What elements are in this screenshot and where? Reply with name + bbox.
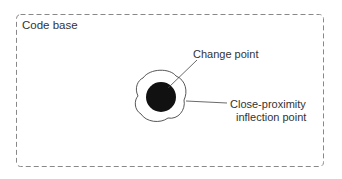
code-base-label: Code base: [22, 19, 78, 32]
inflection-leader: [186, 101, 227, 103]
inflection-label-line2: inflection point: [236, 111, 306, 124]
inflection-label-line1: Close-proximity: [230, 98, 306, 111]
change-point-label: Change point: [193, 48, 258, 61]
change-point-core: [146, 82, 176, 112]
